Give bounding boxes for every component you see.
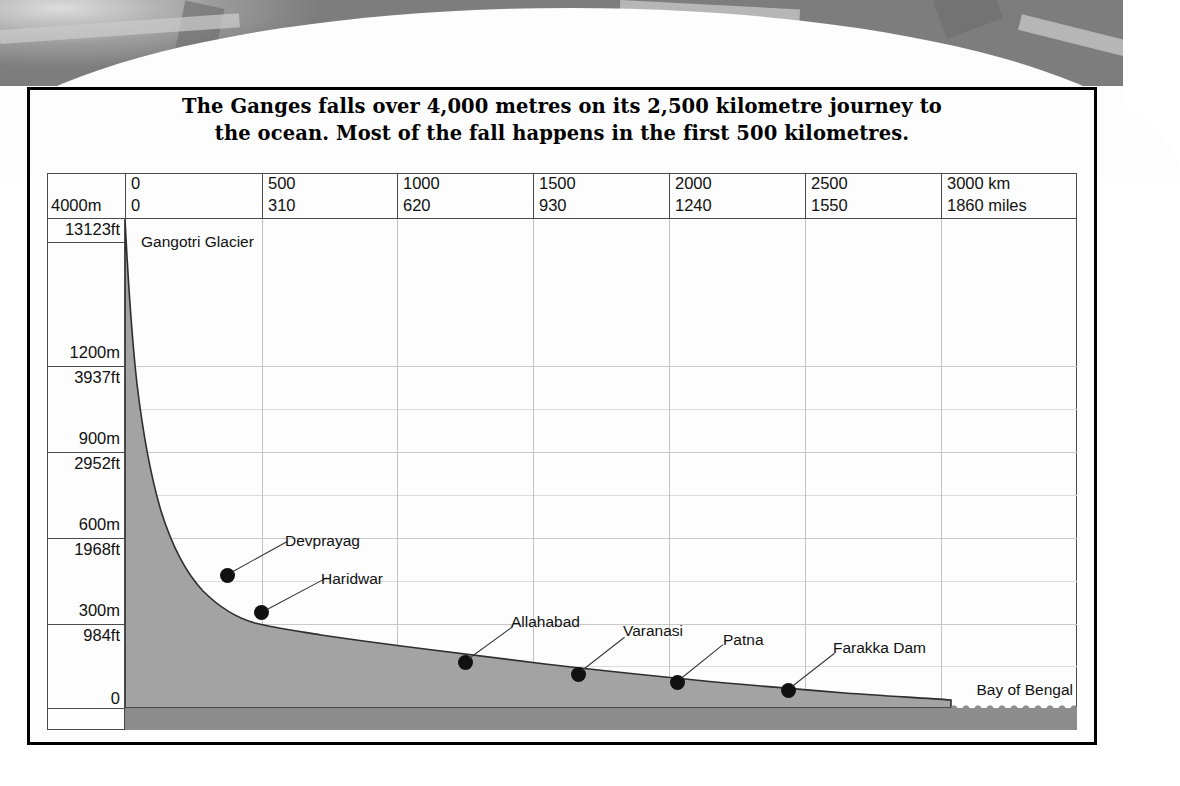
annotation-gangotri-glacier: Gangotri Glacier — [141, 233, 254, 251]
x-tick-miles: 1860 miles — [947, 196, 1027, 215]
x-tick-km: 2500 — [811, 174, 848, 193]
x-tick-miles: 0 — [131, 196, 140, 215]
x-tick-km: 3000 km — [947, 174, 1010, 193]
y-tick-divider — [47, 366, 125, 367]
y-label-984ft: 984ft — [83, 626, 120, 645]
y-label-2952ft: 2952ft — [74, 454, 120, 473]
y-label-1968ft: 1968ft — [74, 540, 120, 559]
y-tick-divider — [47, 538, 125, 539]
y-tick-divider — [47, 242, 125, 243]
y-label-13123ft: 13123ft — [65, 220, 120, 239]
label-allahabad: Allahabad — [511, 613, 580, 631]
annotation-bay-of-bengal: Bay of Bengal — [976, 681, 1073, 699]
label-patna: Patna — [723, 631, 764, 649]
x-tick-km: 500 — [268, 174, 296, 193]
y-tick-divider — [47, 452, 125, 453]
title-line-2: the ocean. Most of the fall happens in t… — [30, 120, 1094, 147]
point-haridwar[interactable] — [254, 605, 269, 620]
x-tick-km: 2000 — [675, 174, 712, 193]
x-axis-header: 4000m 0 0 500 310 1000 620 1500 930 2000… — [47, 173, 1077, 219]
x-tick-miles: 1550 — [811, 196, 848, 215]
page-title: The Ganges falls over 4,000 metres on it… — [30, 93, 1094, 147]
x-tick-miles: 620 — [403, 196, 431, 215]
bedrock-band — [125, 708, 1077, 730]
x-tick-miles: 310 — [268, 196, 296, 215]
y-tick-divider — [47, 624, 125, 625]
x-tick-cell-2500km: 2500 1550 — [805, 173, 941, 219]
y-label-3937ft: 3937ft — [74, 368, 120, 387]
land-profile-area — [125, 219, 951, 708]
y-label-300m: 300m — [79, 601, 120, 620]
y-axis-top-label: 4000m — [51, 196, 101, 215]
y-axis-top-label-cell: 4000m — [47, 173, 125, 219]
x-tick-cell-500km: 500 310 — [262, 173, 397, 219]
x-tick-cell-2000km: 2000 1240 — [669, 173, 805, 219]
x-tick-miles: 1240 — [675, 196, 712, 215]
x-tick-miles: 930 — [539, 196, 567, 215]
y-label-zero: 0 — [111, 689, 120, 708]
x-tick-km: 0 — [131, 174, 140, 193]
plot-area: Gangotri Glacier Bay of Bengal Devprayag… — [125, 219, 1077, 730]
x-tick-cell-3000km: 3000 km 1860 miles — [941, 173, 1077, 219]
y-label-900m: 900m — [79, 429, 120, 448]
sea-surface-waves — [951, 703, 1077, 719]
y-label-600m: 600m — [79, 515, 120, 534]
y-tick-divider-baseline — [47, 708, 125, 709]
x-tick-km: 1000 — [403, 174, 440, 193]
label-varanasi: Varanasi — [623, 622, 683, 640]
label-haridwar: Haridwar — [321, 570, 383, 588]
label-devprayag: Devprayag — [285, 532, 360, 550]
x-tick-cell-1000km: 1000 620 — [397, 173, 533, 219]
y-axis: 13123ft 1200m 3937ft 900m 2952ft 600m 19… — [47, 219, 125, 730]
x-tick-cell-0km: 0 0 — [125, 173, 262, 219]
title-line-1: The Ganges falls over 4,000 metres on it… — [30, 93, 1094, 120]
y-label-1200m: 1200m — [70, 343, 120, 362]
x-tick-km: 1500 — [539, 174, 576, 193]
x-tick-cell-1500km: 1500 930 — [533, 173, 669, 219]
label-farakka-dam: Farakka Dam — [833, 639, 926, 657]
